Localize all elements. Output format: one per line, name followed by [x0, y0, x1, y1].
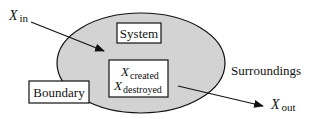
- inflow-label: Xin: [8, 8, 29, 24]
- outflow-label: Xout: [270, 97, 296, 113]
- outflow-symbol: X: [270, 97, 280, 112]
- system-diagram: System Xcreated Xdestroyed Boundary Xin …: [0, 0, 311, 119]
- inflow-subscript: in: [20, 12, 29, 24]
- system-label: System: [120, 26, 158, 41]
- outflow-subscript: out: [282, 101, 296, 113]
- created-subscript: created: [130, 70, 159, 81]
- boundary-label: Boundary: [33, 85, 85, 100]
- surroundings-label: Surroundings: [231, 63, 301, 78]
- destroyed-subscript: destroyed: [123, 84, 162, 95]
- destroyed-symbol: X: [113, 78, 123, 93]
- created-symbol: X: [120, 64, 130, 79]
- inflow-symbol: X: [8, 8, 18, 23]
